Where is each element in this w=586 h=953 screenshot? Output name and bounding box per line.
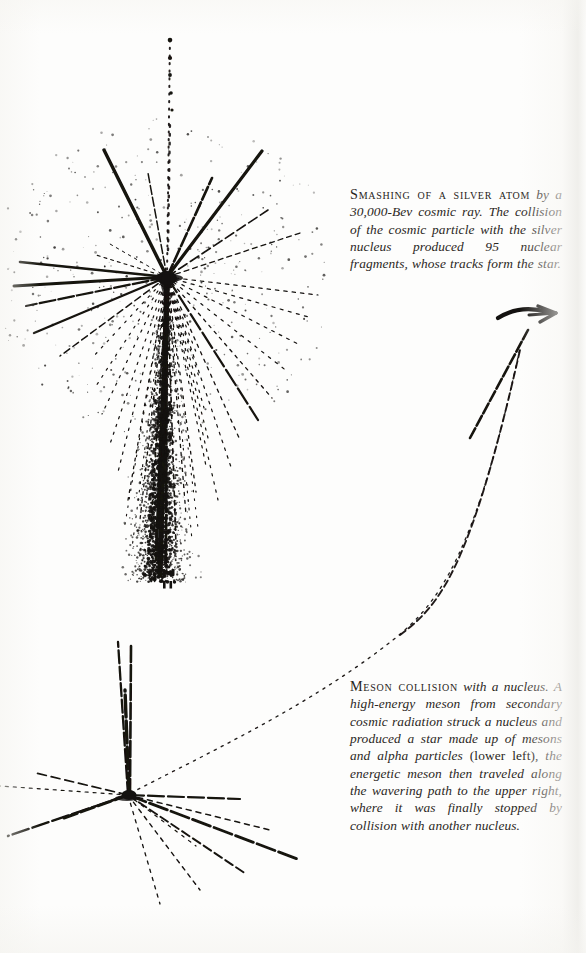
caption-meson-parenthetical: (lower left) (470, 748, 535, 763)
book-page: Smashing of a silver atom by a 30,000-Be… (0, 0, 586, 953)
caption-silver-atom: Smashing of a silver atom by a 30,000-Be… (350, 186, 562, 273)
meson-star-vertex (115, 790, 139, 801)
caption-silver-lead: Smashing of a silver atom (350, 186, 530, 202)
caption-meson-collision: Meson collision with a nucleus. A high-e… (350, 678, 562, 834)
caption-meson-lead: Meson collision (350, 678, 458, 694)
meson-path-arrowhead (498, 306, 556, 322)
